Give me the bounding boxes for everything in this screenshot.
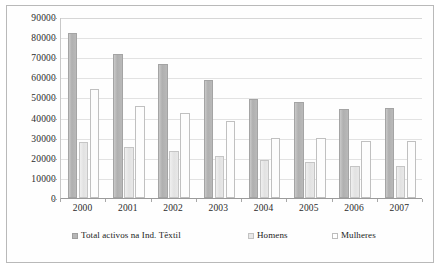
bar-group-2000	[61, 18, 106, 198]
x-axis-tick-label-2005: 2005	[286, 203, 331, 213]
bar-2007-series-0[interactable]	[385, 108, 395, 199]
x-axis-tick-mark	[196, 199, 197, 202]
bar-group-2001	[106, 18, 151, 198]
x-axis-tick-mark	[422, 199, 423, 202]
y-axis-tick-label: 80000	[4, 33, 56, 43]
y-axis-tick-mark	[53, 38, 57, 39]
bar-2005-series-0[interactable]	[294, 102, 304, 198]
bar-2004-series-1[interactable]	[260, 160, 270, 198]
legend-label: Homens	[257, 231, 288, 240]
bar-group-2002	[152, 18, 197, 198]
x-axis-tick-mark	[151, 199, 152, 202]
y-axis-tick-label: 0	[4, 194, 56, 204]
bar-group-2003	[197, 18, 242, 198]
bar-2006-series-1[interactable]	[350, 166, 360, 198]
y-axis-tick-label: 90000	[4, 13, 56, 23]
bar-2003-series-1[interactable]	[215, 156, 225, 198]
y-axis-tick-label: 10000	[4, 174, 56, 184]
x-axis-tick-label-2006: 2006	[332, 203, 377, 213]
y-axis-tick-mark	[53, 179, 57, 180]
y-axis-tick-label: 40000	[4, 114, 56, 124]
bar-group-2006	[333, 18, 378, 198]
series-1-swatch	[248, 233, 254, 239]
x-axis-tick-label-2007: 2007	[377, 203, 422, 213]
y-axis-tick-mark	[53, 78, 57, 79]
y-axis-tick-mark	[53, 119, 57, 120]
bar-2000-series-1[interactable]	[79, 142, 89, 198]
y-axis-tick-mark	[53, 58, 57, 59]
bar-2002-series-0[interactable]	[158, 64, 168, 198]
y-axis-tick-mark	[53, 159, 57, 160]
legend-label: Mulheres	[341, 231, 376, 240]
y-axis-tick-mark	[53, 18, 57, 19]
chart-legend: Total activos na Ind. TêxtilHomensMulher…	[60, 231, 420, 245]
y-axis-tick-mark	[53, 199, 57, 200]
y-axis-tick-label: 30000	[4, 134, 56, 144]
y-axis-tick-label: 20000	[4, 154, 56, 164]
x-axis-tick-label-2003: 2003	[196, 203, 241, 213]
x-axis-label-group: 20002001200220032004200520062007	[60, 203, 422, 219]
bar-group-2007	[378, 18, 423, 198]
legend-item-2[interactable]: Mulheres	[332, 231, 376, 240]
bar-2006-series-0[interactable]	[339, 109, 349, 198]
y-axis-tick-mark	[53, 98, 57, 99]
series-0-swatch	[72, 233, 78, 239]
y-axis-tick-label: 60000	[4, 73, 56, 83]
bar-2006-series-2[interactable]	[361, 141, 371, 198]
x-axis-tick-mark	[286, 199, 287, 202]
x-axis-tick-mark	[241, 199, 242, 202]
legend-item-0[interactable]: Total activos na Ind. Têxtil	[72, 231, 181, 240]
x-axis-tick-mark	[332, 199, 333, 202]
bar-2007-series-2[interactable]	[407, 141, 417, 198]
x-axis-tick-label-2002: 2002	[151, 203, 196, 213]
bar-2002-series-1[interactable]	[169, 151, 179, 198]
bar-2004-series-0[interactable]	[249, 99, 259, 198]
legend-label: Total activos na Ind. Têxtil	[81, 231, 181, 240]
y-axis-tick-label: 70000	[4, 53, 56, 63]
bar-2002-series-2[interactable]	[180, 113, 190, 198]
bar-2007-series-1[interactable]	[396, 166, 406, 198]
bar-2001-series-1[interactable]	[124, 147, 134, 198]
x-axis-tick-mark	[105, 199, 106, 202]
x-axis-tick-label-2001: 2001	[105, 203, 150, 213]
bar-2000-series-2[interactable]	[90, 89, 100, 198]
bar-2001-series-0[interactable]	[113, 54, 123, 198]
bar-2001-series-2[interactable]	[135, 106, 145, 199]
bar-2003-series-2[interactable]	[226, 121, 236, 198]
x-axis-tick-label-2004: 2004	[241, 203, 286, 213]
plot-area	[60, 18, 422, 199]
x-axis-tick-mark	[377, 199, 378, 202]
bar-group-2004	[242, 18, 287, 198]
legend-item-1[interactable]: Homens	[248, 231, 288, 240]
y-axis-tick-mark	[53, 139, 57, 140]
bars-layer	[61, 18, 422, 198]
bar-2005-series-1[interactable]	[305, 162, 315, 198]
bar-group-2005	[287, 18, 332, 198]
x-axis-tick-label-2000: 2000	[60, 203, 105, 213]
bar-2005-series-2[interactable]	[316, 138, 326, 198]
bar-2003-series-0[interactable]	[204, 80, 214, 198]
bar-2004-series-2[interactable]	[271, 138, 281, 198]
series-2-swatch	[332, 233, 338, 239]
bar-2000-series-0[interactable]	[68, 33, 78, 198]
bar-chart-figure: 0100002000030000400005000060000700008000…	[0, 0, 442, 270]
y-axis-tick-label: 50000	[4, 93, 56, 103]
y-axis-label-group: 0100002000030000400005000060000700008000…	[0, 18, 56, 199]
x-axis-tick-mark	[60, 199, 61, 202]
